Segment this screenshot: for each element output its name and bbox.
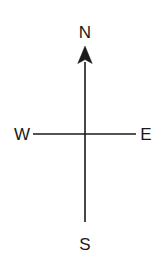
label-west: W xyxy=(14,125,30,144)
label-east: E xyxy=(140,125,151,144)
label-north: N xyxy=(79,23,91,42)
compass-rose-figure: N W E S xyxy=(0,0,160,270)
compass-diagram: N W E S xyxy=(0,0,160,270)
label-south: S xyxy=(79,235,90,254)
